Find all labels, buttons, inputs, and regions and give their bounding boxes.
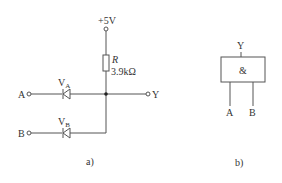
gate-input-b-label: B <box>249 107 256 118</box>
and-gate-symbol: Y & A B b) <box>221 40 265 169</box>
supply-terminal <box>104 27 108 31</box>
input-b-label: B <box>18 128 25 139</box>
output-terminal <box>146 92 150 96</box>
input-a-terminal <box>27 92 31 96</box>
resistor-name: R <box>111 54 118 65</box>
diode-b-icon <box>63 128 70 138</box>
output-label: Y <box>152 89 159 100</box>
diode-b-label: VB <box>58 116 70 129</box>
gate-output-label: Y <box>237 40 244 51</box>
input-a-label: A <box>18 89 26 100</box>
caption-b: b) <box>235 157 243 169</box>
input-b-terminal <box>27 131 31 135</box>
caption-a: a) <box>86 156 94 168</box>
diode-a-icon <box>63 89 70 99</box>
resistor-value: 3.9kΩ <box>111 66 136 77</box>
diode-and-circuit: +5V R 3.9kΩ A VA Y B VB a) <box>18 15 159 168</box>
junction-dot <box>104 92 108 96</box>
resistor-symbol <box>103 55 109 71</box>
gate-input-a-label: A <box>226 107 234 118</box>
supply-label: +5V <box>98 15 117 26</box>
diode-a-label: VA <box>58 77 70 90</box>
gate-symbol: & <box>239 65 247 76</box>
diagram-canvas: +5V R 3.9kΩ A VA Y B VB a) <box>0 0 282 183</box>
